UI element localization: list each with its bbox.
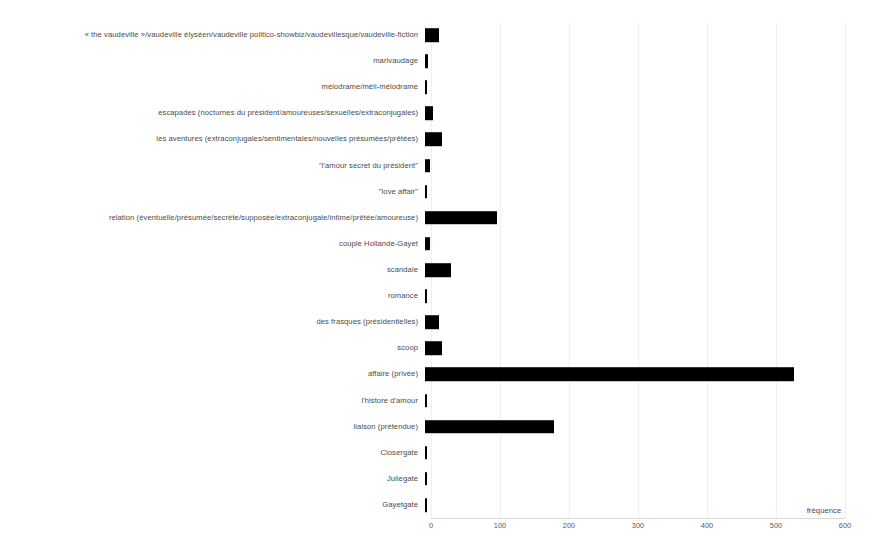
bar-cell [425, 309, 883, 335]
bar [425, 368, 794, 382]
bar-row: "l'amour secret du président" [0, 153, 883, 179]
category-label: Gayetgate [0, 500, 425, 510]
category-label: Juliegate [0, 474, 425, 484]
category-label: des frasques (présidentielles) [0, 317, 425, 327]
bar [425, 237, 430, 251]
bar-cell [425, 361, 883, 387]
bar [425, 446, 427, 460]
category-label: couple Hollande-Gayet [0, 239, 425, 249]
category-label: scandale [0, 265, 425, 275]
bar-row: escapades (nocturnes du président/amoure… [0, 100, 883, 126]
bar-cell [425, 179, 883, 205]
bar-rows: « the vaudeville »/vaudeville élyséen/va… [0, 22, 883, 518]
bar-cell [425, 74, 883, 100]
bar [425, 107, 433, 121]
bar-cell [425, 414, 883, 440]
bar [425, 80, 427, 94]
x-axis-line [431, 518, 845, 519]
bar [425, 342, 442, 356]
bar-cell [425, 231, 883, 257]
bar-row: liaison (prétendue) [0, 414, 883, 440]
bar [425, 315, 439, 329]
bar-row: scandale [0, 257, 883, 283]
bar [425, 498, 427, 512]
bar-row: affaire (privée) [0, 361, 883, 387]
x-axis-tick-labels: 0100200300400500600 [0, 521, 883, 537]
category-label: "love affair" [0, 187, 425, 197]
bar [425, 133, 442, 147]
bar [425, 211, 497, 225]
bar [425, 472, 427, 486]
bar-row: des frasques (présidentielles) [0, 309, 883, 335]
category-label: escapades (nocturnes du président/amoure… [0, 108, 425, 118]
bar-row: marivaudage [0, 48, 883, 74]
bar-row: Juliegate [0, 466, 883, 492]
bar-cell [425, 387, 883, 413]
x-tick-label: 0 [429, 521, 433, 530]
category-label: « the vaudeville »/vaudeville élyséen/va… [0, 30, 425, 40]
bar [425, 394, 427, 408]
bar-row: mélodrame/méli-mélodrame [0, 74, 883, 100]
bar-row: relation (éventuelle/présumée/secrète/su… [0, 205, 883, 231]
bar-cell [425, 440, 883, 466]
x-tick-label: 400 [701, 521, 714, 530]
category-label: les aventures (extraconjugales/sentiment… [0, 134, 425, 144]
x-tick-label: 200 [563, 521, 576, 530]
bar [425, 420, 554, 434]
x-tick-label: 600 [839, 521, 852, 530]
bar [425, 185, 427, 199]
bar [425, 263, 451, 277]
category-label: marivaudage [0, 56, 425, 66]
bar-cell [425, 22, 883, 48]
bar-cell [425, 335, 883, 361]
horizontal-bar-chart: « the vaudeville »/vaudeville élyséen/va… [0, 0, 883, 560]
category-label: "l'amour secret du président" [0, 161, 425, 171]
bar-row: couple Hollande-Gayet [0, 231, 883, 257]
bar-row: "love affair" [0, 179, 883, 205]
bar-row: romance [0, 283, 883, 309]
category-label: mélodrame/méli-mélodrame [0, 82, 425, 92]
bar-row: « the vaudeville »/vaudeville élyséen/va… [0, 22, 883, 48]
category-label: relation (éventuelle/présumée/secrète/su… [0, 213, 425, 223]
x-axis-title: fréquence [807, 506, 842, 515]
bar-cell [425, 48, 883, 74]
bar-cell [425, 257, 883, 283]
bar-row: les aventures (extraconjugales/sentiment… [0, 126, 883, 152]
category-label: liaison (prétendue) [0, 422, 425, 432]
category-label: Closergate [0, 448, 425, 458]
category-label: scoop [0, 343, 425, 353]
bar-row: Gayetgate [0, 492, 883, 518]
category-label: romance [0, 291, 425, 301]
x-tick-label: 100 [494, 521, 507, 530]
bar [425, 54, 428, 68]
bar [425, 159, 430, 173]
bar-row: scoop [0, 335, 883, 361]
bar-cell [425, 466, 883, 492]
bar-cell [425, 283, 883, 309]
category-label: affaire (privée) [0, 369, 425, 379]
bar-cell [425, 126, 883, 152]
category-label: l'histore d'amour [0, 396, 425, 406]
bar-row: l'histore d'amour [0, 387, 883, 413]
bar-cell [425, 205, 883, 231]
bar-row: Closergate [0, 440, 883, 466]
x-tick-label: 500 [770, 521, 783, 530]
x-tick-label: 300 [632, 521, 645, 530]
bar [425, 28, 439, 42]
bar-cell [425, 100, 883, 126]
bar [425, 289, 427, 303]
bar-cell [425, 153, 883, 179]
